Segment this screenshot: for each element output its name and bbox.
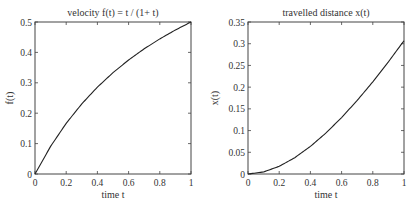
x-tick-label: 0.8 <box>367 178 379 188</box>
y-tick-label: 0.15 <box>228 104 245 114</box>
x-tick-label: 0.6 <box>123 178 135 188</box>
x-tick-label: 0.2 <box>60 178 72 188</box>
y-axis-label: f(t) <box>4 92 16 105</box>
x-tick-label: 0.2 <box>273 178 285 188</box>
x-tick-label: 1 <box>402 178 407 188</box>
x-axis-label: time t <box>101 189 124 200</box>
velocity-plot: 00.20.40.60.8100.10.20.30.40.5velocity f… <box>4 7 194 200</box>
series-line <box>248 41 404 174</box>
y-tick-label: 0.3 <box>20 78 32 88</box>
figure: 00.20.40.60.8100.10.20.30.40.5velocity f… <box>0 0 417 203</box>
y-tick-label: 0.4 <box>20 48 32 58</box>
x-tick-label: 1 <box>189 178 194 188</box>
y-tick-label: 0.35 <box>228 18 245 28</box>
series-line <box>35 22 191 174</box>
y-tick-label: 0 <box>240 170 245 180</box>
y-tick-label: 0.2 <box>233 83 245 93</box>
x-tick-label: 0 <box>33 178 38 188</box>
y-tick-label: 0.3 <box>233 39 245 49</box>
y-tick-label: 0.2 <box>20 109 32 119</box>
x-tick-label: 0.6 <box>336 178 348 188</box>
y-tick-label: 0.1 <box>233 126 245 136</box>
x-axis-label: time t <box>314 189 337 200</box>
y-tick-label: 0 <box>27 170 32 180</box>
distance-plot: 00.20.40.60.8100.050.10.150.20.250.30.35… <box>209 7 407 200</box>
y-tick-label: 0.1 <box>20 139 32 149</box>
y-tick-label: 0.05 <box>228 148 245 158</box>
x-tick-label: 0.4 <box>91 178 103 188</box>
plot-title: velocity f(t) = t / (1+ t) <box>67 7 158 19</box>
plot-title: travelled distance x(t) <box>282 7 369 19</box>
y-tick-label: 0.5 <box>20 18 32 28</box>
plot-frame <box>35 22 191 174</box>
x-tick-label: 0.8 <box>154 178 166 188</box>
plot-frame <box>248 22 404 174</box>
y-axis-label: x(t) <box>209 91 221 105</box>
x-tick-label: 0.4 <box>304 178 316 188</box>
x-tick-label: 0 <box>246 178 251 188</box>
y-tick-label: 0.25 <box>228 61 245 71</box>
